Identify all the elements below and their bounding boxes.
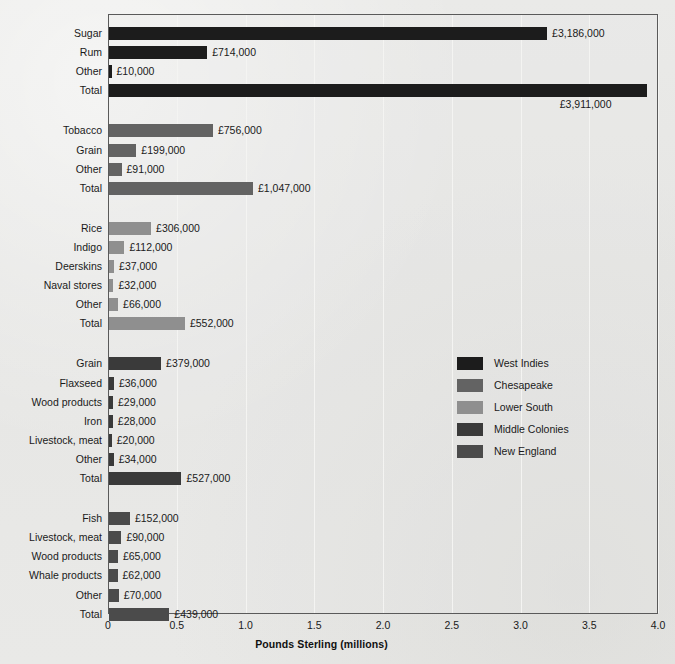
x-axis-title: Pounds Sterling (millions) bbox=[0, 638, 675, 650]
bar bbox=[109, 589, 119, 602]
x-tick-label: 0.5 bbox=[169, 619, 184, 631]
bar bbox=[109, 377, 114, 390]
bar-value-label: £36,000 bbox=[119, 377, 157, 390]
legend-label: Lower South bbox=[494, 401, 553, 413]
bar-value-label: £66,000 bbox=[123, 298, 161, 311]
bar-row-label: Wood products bbox=[0, 550, 102, 563]
bar-value-label: £65,000 bbox=[123, 550, 161, 563]
bar-value-label: £29,000 bbox=[118, 396, 156, 409]
x-axis-title-text: Pounds Sterling (millions) bbox=[255, 638, 388, 650]
legend-swatch bbox=[457, 357, 483, 370]
bar-value-label: £3,186,000 bbox=[552, 27, 605, 40]
bar bbox=[109, 453, 114, 466]
bar-value-label: £527,000 bbox=[186, 472, 230, 485]
bar-row-label: Livestock, meat bbox=[0, 434, 102, 447]
x-tick-label: 3.5 bbox=[582, 619, 597, 631]
bar-value-label: £714,000 bbox=[212, 46, 256, 59]
x-tick-label: 0 bbox=[105, 619, 111, 631]
x-tick-label: 1.0 bbox=[238, 619, 253, 631]
bar-row-label: Tobacco bbox=[0, 124, 102, 137]
bar-row-label: Naval stores bbox=[0, 279, 102, 292]
bar bbox=[109, 182, 253, 195]
bar bbox=[109, 531, 121, 544]
bar-value-label: £62,000 bbox=[123, 569, 161, 582]
bar bbox=[109, 550, 118, 563]
bar-value-label: £10,000 bbox=[117, 65, 155, 78]
bar bbox=[109, 569, 118, 582]
legend-item: Middle Colonies bbox=[457, 418, 569, 440]
legend-label: Chesapeake bbox=[494, 379, 553, 391]
bar bbox=[109, 434, 112, 447]
bar-row-label: Other bbox=[0, 163, 102, 176]
bar bbox=[109, 512, 130, 525]
bar-row-label: Iron bbox=[0, 415, 102, 428]
bar-value-label: £552,000 bbox=[190, 317, 234, 330]
bar-value-label: £37,000 bbox=[119, 260, 157, 273]
bar bbox=[109, 27, 547, 40]
bar-row: Tobacco£756,000 bbox=[0, 124, 675, 137]
bar bbox=[109, 144, 136, 157]
bar-row-label: Grain bbox=[0, 357, 102, 370]
bar-row-label: Deerskins bbox=[0, 260, 102, 273]
bar-row-label: Wood products bbox=[0, 396, 102, 409]
bar bbox=[109, 65, 112, 78]
bar-row: Livestock, meat£90,000 bbox=[0, 531, 675, 544]
bar-row: Wood products£29,000 bbox=[0, 396, 675, 409]
bar bbox=[109, 396, 113, 409]
x-tick-label: 2.0 bbox=[376, 619, 391, 631]
bar-value-label: £379,000 bbox=[166, 357, 210, 370]
legend-item: New England bbox=[457, 440, 569, 462]
x-tick-label: 2.5 bbox=[444, 619, 459, 631]
bar-row: Naval stores£32,000 bbox=[0, 279, 675, 292]
bar-row: Deerskins£37,000 bbox=[0, 260, 675, 273]
bar-row: Grain£379,000 bbox=[0, 357, 675, 370]
bar-row: Fish£152,000 bbox=[0, 512, 675, 525]
bar bbox=[109, 84, 647, 97]
bar-row: Total£552,000 bbox=[0, 317, 675, 330]
bar-row-label: Other bbox=[0, 589, 102, 602]
bar bbox=[109, 608, 169, 621]
bar-value-label: £3,911,000 bbox=[560, 98, 612, 111]
bar-row: Other£34,000 bbox=[0, 453, 675, 466]
bar-value-label: £70,000 bbox=[124, 589, 162, 602]
bar bbox=[109, 260, 114, 273]
legend-swatch bbox=[457, 423, 483, 436]
bar-value-label: £756,000 bbox=[218, 124, 262, 137]
legend-swatch bbox=[457, 445, 483, 458]
legend-item: Chesapeake bbox=[457, 374, 569, 396]
bar-value-label: £90,000 bbox=[126, 531, 164, 544]
chart-legend: West IndiesChesapeakeLower SouthMiddle C… bbox=[457, 352, 569, 462]
legend-label: West Indies bbox=[494, 357, 549, 369]
bar-row: Total£527,000 bbox=[0, 472, 675, 485]
bar-row: Other£10,000 bbox=[0, 65, 675, 78]
bar-value-label: £152,000 bbox=[135, 512, 179, 525]
bar-row-label: Rum bbox=[0, 46, 102, 59]
bar-row-label: Total bbox=[0, 608, 102, 621]
bar-row: Flaxseed£36,000 bbox=[0, 377, 675, 390]
x-tick-label: 3.0 bbox=[513, 619, 528, 631]
bar-value-label: £28,000 bbox=[118, 415, 156, 428]
bar-row-label: Other bbox=[0, 65, 102, 78]
x-tick-label: 4.0 bbox=[651, 619, 666, 631]
bar bbox=[109, 415, 113, 428]
bar-row: Livestock, meat£20,000 bbox=[0, 434, 675, 447]
legend-swatch bbox=[457, 379, 483, 392]
bar bbox=[109, 124, 213, 137]
bar-value-label: £1,047,000 bbox=[258, 182, 311, 195]
bar-row: Rum£714,000 bbox=[0, 46, 675, 59]
bar-value-label: £112,000 bbox=[129, 241, 172, 254]
bar bbox=[109, 241, 124, 254]
bar-row: Other£66,000 bbox=[0, 298, 675, 311]
bar bbox=[109, 317, 185, 330]
bar-row-label: Total bbox=[0, 472, 102, 485]
bar-value-label: £199,000 bbox=[141, 144, 185, 157]
legend-swatch bbox=[457, 401, 483, 414]
bar bbox=[109, 472, 181, 485]
bar-row: Rice£306,000 bbox=[0, 222, 675, 235]
bar-row: Grain£199,000 bbox=[0, 144, 675, 157]
bar-row-label: Other bbox=[0, 453, 102, 466]
bar-row-label: Total bbox=[0, 84, 102, 97]
bar-row-label: Fish bbox=[0, 512, 102, 525]
bar-row-label: Other bbox=[0, 298, 102, 311]
legend-item: West Indies bbox=[457, 352, 569, 374]
